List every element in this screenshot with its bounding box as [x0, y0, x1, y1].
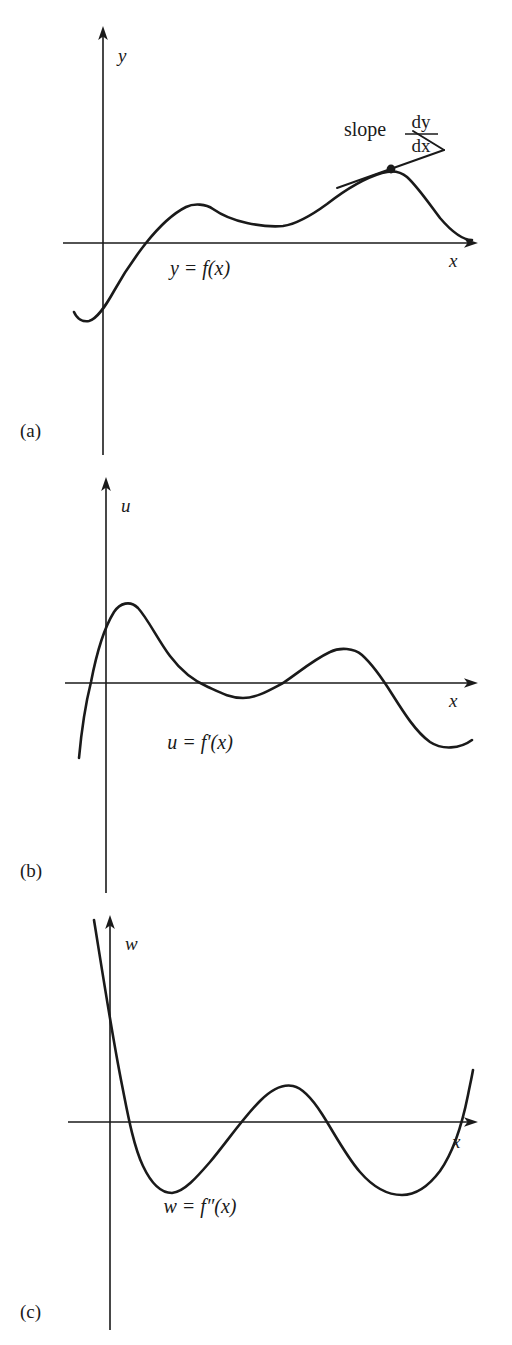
panel-a-tangent-point-dot [387, 165, 396, 174]
panel-c: w x w = f″(x) (c) [20, 915, 478, 1330]
slope-fraction-denominator: dx [412, 135, 432, 156]
panel-b-y-axis-label: u [121, 495, 131, 516]
panel-a-x-axis-label: x [448, 250, 458, 271]
panel-b-x-axis-label: x [448, 690, 458, 711]
panel-c-second-derivative-curve [94, 920, 473, 1195]
panel-a-y-axis-label: y [116, 45, 127, 66]
panel-c-curve-label: w = f″(x) [164, 1195, 237, 1218]
panel-b: u x u = f′(x) (b) [20, 477, 478, 893]
panel-b-derivative-curve [79, 603, 472, 758]
panel-b-curve-label: u = f′(x) [167, 731, 233, 754]
panel-c-y-axis-label: w [125, 933, 138, 954]
panel-b-letter-label: (b) [20, 860, 42, 882]
three-panel-derivative-figure: y x slope dy dx y = f(x) (a) u x [0, 0, 512, 1345]
panel-a-slope-annotation: slope dy dx [344, 111, 438, 156]
panel-a-function-curve [74, 171, 472, 321]
panel-c-letter-label: (c) [20, 1301, 41, 1323]
panel-a: y x slope dy dx y = f(x) (a) [20, 26, 478, 455]
panel-a-letter-label: (a) [20, 420, 41, 442]
slope-annotation-word: slope [344, 118, 386, 141]
panel-a-curve-label: y = f(x) [168, 257, 230, 280]
slope-fraction-numerator: dy [412, 111, 432, 132]
